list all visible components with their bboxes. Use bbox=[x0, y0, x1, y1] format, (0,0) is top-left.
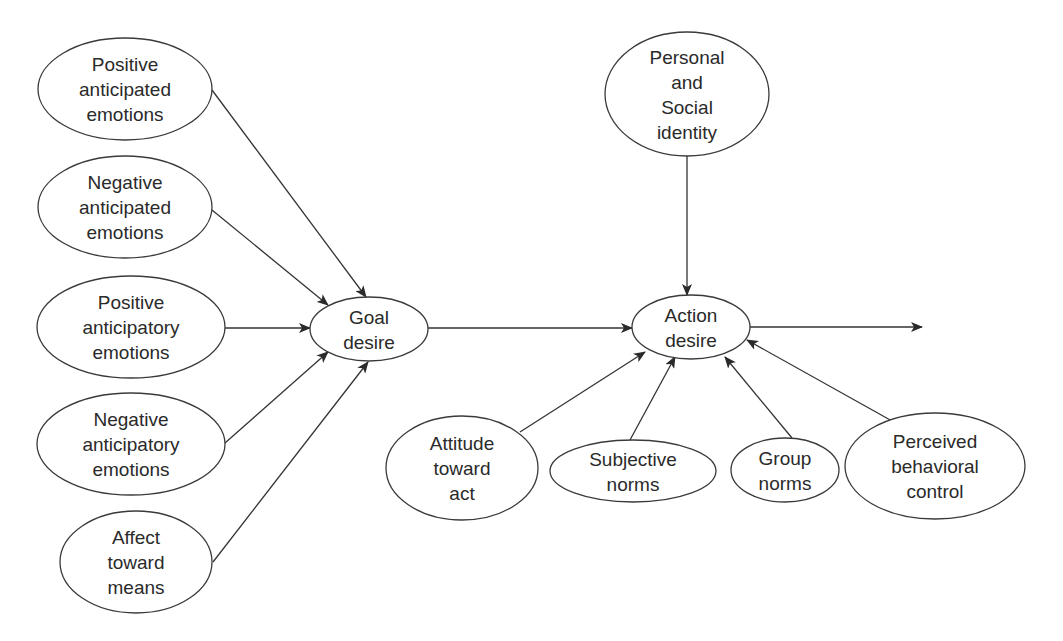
node-label-line: control bbox=[906, 481, 963, 502]
node-label-line: norms bbox=[759, 473, 812, 494]
arrow-line bbox=[725, 357, 792, 438]
node-pos-anticipatory: Positiveanticipatoryemotions bbox=[37, 276, 225, 378]
node-label-line: Positive bbox=[92, 54, 159, 75]
node-label-line: toward bbox=[433, 458, 490, 479]
node-label-line: anticipatory bbox=[82, 434, 180, 455]
arrow-line bbox=[520, 352, 645, 432]
node-label-line: Perceived bbox=[893, 431, 978, 452]
node-label-line: desire bbox=[665, 330, 717, 351]
node-label-line: and bbox=[671, 72, 703, 93]
node-attitude-act: Attitudetowardact bbox=[386, 416, 538, 520]
arrow-neg-anticipated-to-goal-desire bbox=[212, 210, 328, 305]
arrow-attitude-act-to-action-desire bbox=[520, 352, 645, 432]
node-label-line: emotions bbox=[92, 459, 169, 480]
node-label-line: Personal bbox=[650, 47, 725, 68]
node-label-line: Goal bbox=[349, 307, 389, 328]
node-label-line: behavioral bbox=[891, 456, 979, 477]
node-label-line: act bbox=[449, 483, 475, 504]
node-goal-desire: Goaldesire bbox=[310, 297, 428, 361]
node-label-line: anticipatory bbox=[82, 317, 180, 338]
node-label-line: Group bbox=[759, 448, 812, 469]
node-action-desire: Actiondesire bbox=[632, 295, 750, 359]
node-label-line: Action bbox=[665, 305, 718, 326]
arrow-line bbox=[747, 340, 892, 421]
node-label-line: means bbox=[107, 577, 164, 598]
arrow-subjective-norms-to-action-desire bbox=[630, 357, 675, 440]
node-label-line: Positive bbox=[98, 292, 165, 313]
arrow-affect-means-to-goal-desire bbox=[213, 362, 368, 562]
node-label-line: Attitude bbox=[430, 433, 494, 454]
arrow-pos-anticipated-to-goal-desire bbox=[212, 90, 366, 297]
arrow-line bbox=[212, 210, 328, 305]
model-of-goal-directed-behavior-diagram: PositiveanticipatedemotionsNegativeantic… bbox=[0, 0, 1063, 641]
node-neg-anticipatory: Negativeanticipatoryemotions bbox=[37, 393, 225, 495]
node-label-line: desire bbox=[343, 332, 395, 353]
node-label-line: norms bbox=[607, 474, 660, 495]
arrow-group-norms-to-action-desire bbox=[725, 357, 792, 438]
node-label-line: identity bbox=[657, 122, 718, 143]
node-label-line: Negative bbox=[94, 409, 169, 430]
node-label-line: toward bbox=[107, 552, 164, 573]
arrow-neg-anticipatory-to-goal-desire bbox=[225, 352, 328, 443]
arrow-line bbox=[212, 90, 366, 297]
node-label-line: anticipated bbox=[79, 79, 171, 100]
arrow-line bbox=[225, 352, 328, 443]
node-label-line: Negative bbox=[88, 172, 163, 193]
node-neg-anticipated: Negativeanticipatedemotions bbox=[38, 156, 212, 258]
node-label-line: emotions bbox=[86, 104, 163, 125]
node-pbc: Perceivedbehavioralcontrol bbox=[845, 413, 1025, 519]
arrow-line bbox=[630, 357, 675, 440]
node-identity: PersonalandSocialidentity bbox=[605, 32, 769, 156]
node-label-line: Affect bbox=[112, 527, 161, 548]
node-label-line: emotions bbox=[86, 222, 163, 243]
node-subjective-norms: Subjectivenorms bbox=[550, 440, 716, 502]
node-group-norms: Groupnorms bbox=[731, 438, 839, 502]
node-label-line: Subjective bbox=[589, 449, 677, 470]
node-pos-anticipated: Positiveanticipatedemotions bbox=[38, 38, 212, 140]
node-label-line: emotions bbox=[92, 342, 169, 363]
arrow-line bbox=[213, 362, 368, 562]
node-label-line: Social bbox=[661, 97, 713, 118]
nodes-layer: PositiveanticipatedemotionsNegativeantic… bbox=[37, 32, 1025, 613]
node-label-line: anticipated bbox=[79, 197, 171, 218]
arrow-pbc-to-action-desire bbox=[747, 340, 892, 421]
node-affect-means: Affecttowardmeans bbox=[60, 511, 212, 613]
